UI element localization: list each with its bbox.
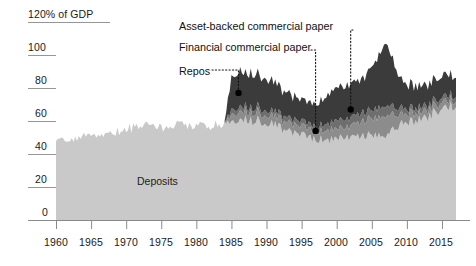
- y-tick-label-0: 0: [42, 207, 48, 218]
- x-tick-label-1975: 1975: [147, 237, 175, 248]
- x-tick-label-1995: 1995: [287, 237, 315, 248]
- x-tick-label-2005: 2005: [357, 237, 385, 248]
- stacked-areas: [56, 44, 456, 220]
- y-tick-label-100: 100: [28, 42, 46, 53]
- x-tick-label-2010: 2010: [392, 237, 420, 248]
- y-tick-label-120: 120% of GDP: [28, 9, 93, 20]
- y-tick-label-40: 40: [35, 141, 47, 152]
- series-label-financial-commercial-paper: Financial commercial paper: [179, 42, 311, 53]
- series-label-repos: Repos: [179, 66, 210, 77]
- area-chart-canvas: [0, 0, 476, 266]
- y-tick-label-20: 20: [35, 174, 47, 185]
- y-tick-label-80: 80: [35, 75, 47, 86]
- x-tick-label-2000: 2000: [322, 237, 350, 248]
- x-tick-label-2015: 2015: [427, 237, 455, 248]
- y-tick-label-60: 60: [35, 108, 47, 119]
- series-label-deposits: Deposits: [137, 176, 178, 187]
- x-tick-label-1965: 1965: [77, 237, 105, 248]
- x-tick-label-1985: 1985: [217, 237, 245, 248]
- x-tick-label-1990: 1990: [252, 237, 280, 248]
- x-axis: [40, 221, 470, 230]
- x-tick-label-1960: 1960: [42, 237, 70, 248]
- x-tick-label-1970: 1970: [112, 237, 140, 248]
- chart-root: 120% of GDP 100 80 60 40 20 0 1960 1965 …: [0, 0, 476, 266]
- series-label-asset-backed-commercial-paper: Asset-backed commercial paper: [179, 21, 333, 32]
- x-tick-label-1980: 1980: [182, 237, 210, 248]
